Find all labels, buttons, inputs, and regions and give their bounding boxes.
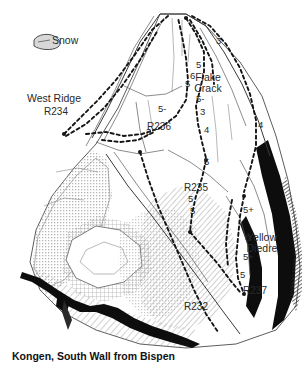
grade-5a: 5 (196, 59, 201, 70)
grade-3b: 3 (146, 126, 151, 137)
grade-4b: 4 (258, 119, 263, 130)
topo-diagram: Snow West Ridge Flake Crack Yellow Diedr… (0, 0, 306, 380)
grade-5plus-a: 5+ (243, 204, 254, 215)
grade-5b: 5 (185, 78, 190, 89)
route-marker-R232[interactable]: R232 (184, 301, 208, 312)
grade-6a: 6 (190, 70, 195, 81)
route-marker-R235[interactable]: R235 (184, 182, 208, 193)
snow-legend-label: Snow (52, 34, 79, 46)
label-west-ridge: West Ridge (27, 92, 81, 104)
grade-5e: 5 (190, 205, 195, 216)
grade-5minus-b: 5- (158, 103, 166, 114)
grade-5minus-a: 5- (196, 93, 204, 104)
grade-4a: 4 (204, 124, 209, 135)
grade-top-3: 3 (216, 35, 221, 46)
legend-group: Snow (52, 34, 79, 46)
grade-3a: 3 (200, 106, 205, 117)
grade-5c: 5 (204, 156, 209, 167)
grade-6b: 6 (245, 232, 250, 243)
route-marker-R234[interactable]: R234 (44, 106, 68, 117)
grade-5f: 5 (240, 269, 245, 280)
grade-5plus-b: 5+ (243, 251, 254, 262)
route-marker-R237[interactable]: R237 (243, 285, 267, 296)
figure-caption: Kongen, South Wall from Bispen (12, 350, 175, 362)
grade-5d: 5 (188, 193, 193, 204)
